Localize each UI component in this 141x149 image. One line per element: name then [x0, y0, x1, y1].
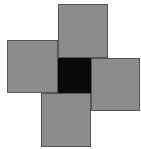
bottom-square: [41, 93, 91, 147]
right-square: [91, 58, 140, 111]
top-square: [58, 4, 108, 58]
left-square: [7, 40, 58, 93]
center-black-square: [58, 58, 91, 93]
